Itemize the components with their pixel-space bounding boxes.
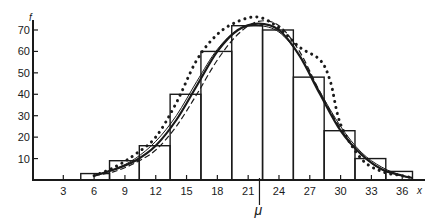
solid-thick-curve	[94, 24, 412, 178]
x-tick-label: 12	[150, 185, 162, 197]
y-tick-label: 10	[18, 153, 30, 165]
histogram-bar	[263, 30, 294, 180]
x-tick-label: 21	[242, 185, 254, 197]
y-tick-label: 50	[18, 67, 30, 79]
x-tick-label: 30	[334, 185, 346, 197]
y-tick-label: 30	[18, 110, 30, 122]
fitted-curves	[94, 17, 412, 178]
x-tick-label: 33	[365, 185, 377, 197]
y-tick-label: 20	[18, 131, 30, 143]
y-tick-label: 40	[18, 88, 30, 100]
histogram-chart: 10203040506070 369121518212427303336 f x…	[0, 0, 441, 223]
y-tick-label: 60	[18, 45, 30, 57]
x-tick-label: 6	[91, 185, 97, 197]
x-tick-label: 24	[273, 185, 285, 197]
solid-thin-curve	[94, 26, 412, 178]
x-tick-label: 3	[60, 185, 66, 197]
histogram-bar	[232, 26, 263, 180]
x-tick-label: 36	[396, 185, 408, 197]
mean-marker-label: μ	[253, 202, 262, 218]
x-tick-label: 9	[122, 185, 128, 197]
x-tick-label: 27	[304, 185, 316, 197]
y-tick-label: 70	[18, 24, 30, 36]
y-axis-ticks: 10203040506070	[18, 24, 38, 165]
x-tick-label: 18	[211, 185, 223, 197]
x-tick-label: 15	[180, 185, 192, 197]
x-axis-ticks: 369121518212427303336	[60, 175, 408, 197]
x-axis-label: x	[416, 185, 423, 196]
histogram-bar	[324, 131, 355, 180]
